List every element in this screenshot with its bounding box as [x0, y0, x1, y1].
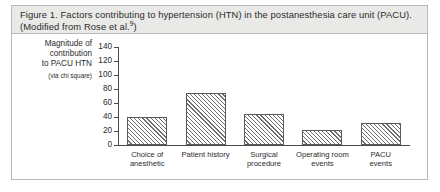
y-tick-label: 40 — [103, 112, 112, 121]
x-axis-line — [118, 145, 410, 146]
bar — [361, 123, 401, 145]
y-axis-title-line-2: contribution — [6, 49, 92, 59]
figure-caption-suffix: ) — [134, 21, 137, 32]
figure-caption-main: Figure 1. Factors contributing to hypert… — [20, 9, 412, 32]
y-axis-title: Magnitude of contribution to PACU HTN (v… — [6, 39, 92, 80]
y-tick-label: 140 — [98, 42, 112, 51]
y-axis-title-line-4: (via chi square) — [6, 71, 92, 80]
y-tick-mark — [114, 47, 118, 48]
category-label-line: PACU — [352, 150, 410, 159]
figure-container: Figure 1. Factors contributing to hypert… — [0, 0, 440, 192]
category-label: PACUevents — [352, 150, 410, 168]
y-tick-label: 120 — [98, 56, 112, 65]
y-tick-mark — [114, 89, 118, 90]
category-label-line: anesthetic — [118, 159, 176, 168]
y-axis-line — [118, 47, 119, 145]
figure-caption-band: Figure 1. Factors contributing to hypert… — [11, 5, 428, 33]
y-axis-title-line-1: Magnitude of — [6, 39, 92, 49]
category-label: Choice ofanesthetic — [118, 150, 176, 168]
category-label-line: Patient history — [176, 150, 234, 159]
category-label-line: procedure — [235, 159, 293, 168]
bar — [244, 114, 284, 146]
y-tick-label: 60 — [103, 98, 112, 107]
y-tick-label: 100 — [98, 70, 112, 79]
y-tick-label: 20 — [103, 126, 112, 135]
figure-caption: Figure 1. Factors contributing to hypert… — [20, 9, 422, 32]
category-label: Patient history — [176, 150, 234, 159]
y-tick-mark — [114, 75, 118, 76]
category-label-line: Surgical — [235, 150, 293, 159]
category-label-line: Choice of — [118, 150, 176, 159]
y-tick-label: 80 — [103, 84, 112, 93]
bar — [127, 117, 167, 145]
category-label-line: events — [293, 159, 351, 168]
category-label-line: Operating room — [293, 150, 351, 159]
y-tick-mark — [114, 103, 118, 104]
bar — [186, 93, 226, 146]
category-label: Operating roomevents — [293, 150, 351, 168]
bar — [302, 130, 342, 145]
y-tick-label: 0 — [107, 140, 112, 149]
y-tick-mark — [114, 117, 118, 118]
chart-plot-area: 020406080100120140 Choice ofanestheticPa… — [118, 47, 410, 145]
y-tick-mark — [114, 145, 118, 146]
category-label: Surgicalprocedure — [235, 150, 293, 168]
y-tick-mark — [114, 131, 118, 132]
y-axis-title-line-3: to PACU HTN — [6, 59, 92, 69]
category-label-line: events — [352, 159, 410, 168]
y-tick-mark — [114, 61, 118, 62]
